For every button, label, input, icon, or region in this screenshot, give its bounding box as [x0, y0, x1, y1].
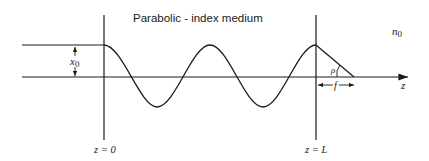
end-label: z = L: [304, 144, 327, 155]
angle-label: ρ: [330, 65, 336, 75]
amplitude-label: x0: [69, 55, 80, 69]
index-label: n0: [392, 25, 403, 39]
diagram: Parabolic - index medium x0 n0 z ρ f z =…: [0, 0, 429, 161]
diagram-title: Parabolic - index medium: [133, 12, 263, 24]
focal-label: f: [334, 80, 338, 91]
start-label: z = 0: [93, 144, 116, 155]
ray-path: [104, 45, 316, 107]
axis-label: z: [400, 79, 406, 91]
angle-arc: [337, 65, 340, 77]
